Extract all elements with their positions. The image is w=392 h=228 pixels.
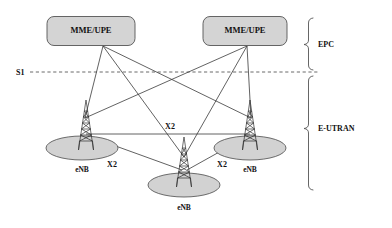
enb-center-node[interactable]: eNB [148, 137, 220, 212]
epc-brace-icon [304, 18, 313, 70]
s1-link-mme-right-to-enb-left [85, 46, 247, 118]
epc-zone-bracket: EPC [304, 18, 334, 70]
e-utran-brace-icon [304, 76, 313, 190]
e-utran-zone-label: E-UTRAN [318, 124, 355, 133]
diagram-canvas: S1 MME/UPE MME/UPE eNB eNB [0, 0, 392, 228]
s1-link-mme-left-to-enb-right [103, 46, 251, 118]
enb-right-label: eNB [243, 165, 257, 174]
mme-upe-right-node[interactable]: MME/UPE [203, 17, 287, 46]
network-architecture-diagram: S1 MME/UPE MME/UPE eNB eNB [0, 0, 392, 228]
x2-label-left-right: X2 [165, 122, 175, 131]
enb-left-label: eNB [75, 165, 89, 174]
x2-label-right-center: X2 [217, 160, 227, 169]
enb-right-coverage-ellipse [214, 136, 286, 160]
s1-interface-label: S1 [16, 68, 24, 77]
mme-upe-left-node[interactable]: MME/UPE [47, 17, 135, 46]
s1-link-mme-left-to-enb-left [85, 46, 103, 118]
mme-upe-left-label: MME/UPE [70, 25, 111, 35]
mme-upe-right-label: MME/UPE [224, 25, 265, 35]
e-utran-zone-bracket: E-UTRAN [304, 76, 355, 190]
x2-label-left-center: X2 [107, 160, 117, 169]
s1-link-mme-left-to-enb-center [103, 46, 184, 157]
enb-center-label: eNB [177, 203, 191, 212]
enb-center-coverage-ellipse [148, 173, 220, 197]
epc-zone-label: EPC [318, 40, 334, 49]
